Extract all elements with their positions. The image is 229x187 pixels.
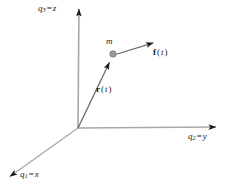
vector-r-arrow bbox=[78, 62, 109, 128]
mass-label: m bbox=[106, 37, 113, 46]
axis-z-equals: = bbox=[46, 3, 53, 13]
vector-f-paren-close: ) bbox=[164, 47, 169, 57]
physics-diagram-3d-axes: q3=z q2=y q1=x m f(t) r(t) bbox=[0, 0, 229, 187]
diagram-canvas bbox=[0, 0, 229, 187]
axis-x-alias: x bbox=[35, 169, 39, 179]
axis-y-line bbox=[78, 127, 216, 128]
axis-x-equals: = bbox=[28, 169, 35, 179]
mass-label-text: m bbox=[106, 36, 113, 46]
axis-x-label: q1=x bbox=[20, 170, 39, 180]
axis-z-line bbox=[78, 9, 79, 128]
axis-z-alias: z bbox=[53, 3, 57, 13]
vector-f-arrow bbox=[114, 43, 153, 55]
mass-point-dot bbox=[110, 51, 116, 57]
axis-y-equals: = bbox=[196, 131, 203, 141]
vector-f-label: f(t) bbox=[153, 48, 169, 57]
axis-y-alias: y bbox=[203, 131, 207, 141]
vector-r-paren-close: ) bbox=[108, 84, 113, 94]
axis-y-label: q2=y bbox=[188, 132, 207, 142]
axis-z-label: q3=z bbox=[38, 4, 56, 14]
vector-r-label: r(t) bbox=[96, 85, 113, 94]
